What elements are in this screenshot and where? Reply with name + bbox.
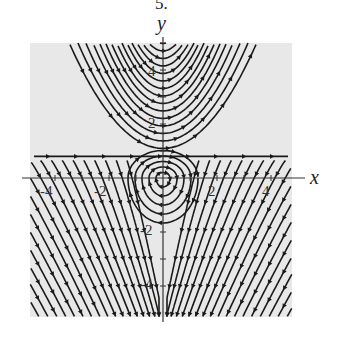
y-axis-label: y <box>157 12 166 35</box>
y-tick-label: -4 <box>140 276 153 293</box>
x-tick-label: 2 <box>208 183 216 200</box>
phase-portrait <box>0 0 345 339</box>
y-tick-label: 4 <box>148 63 156 80</box>
x-axis-label: x <box>310 166 319 189</box>
x-tick-label: -2 <box>94 183 107 200</box>
x-tick-label: -4 <box>40 183 53 200</box>
y-tick-label: -2 <box>140 222 153 239</box>
x-tick-label: 4 <box>262 183 270 200</box>
y-tick-label: 2 <box>148 115 156 132</box>
